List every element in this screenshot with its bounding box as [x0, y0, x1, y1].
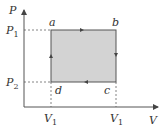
point-c-label: c: [104, 84, 110, 97]
p2-label: P2: [5, 76, 19, 91]
v1-left-label: V1: [44, 112, 57, 127]
v1-right-label: V1: [110, 112, 123, 127]
cycle-region: [51, 30, 116, 82]
y-axis-label: P: [8, 4, 17, 17]
p1-label: P1: [5, 24, 19, 39]
point-b-label: b: [112, 16, 119, 29]
point-d-label: d: [55, 84, 62, 97]
x-axis-label: V: [149, 114, 158, 127]
point-a-label: a: [49, 16, 56, 29]
pv-diagram: P V P1 P2 V1 V1 a b c d: [0, 0, 166, 133]
